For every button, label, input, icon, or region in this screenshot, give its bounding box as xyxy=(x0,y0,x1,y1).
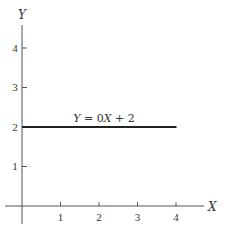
y-tick-label-2: 2 xyxy=(12,121,18,133)
x-tick-label-1: 1 xyxy=(58,211,64,223)
x-tick-label-3: 3 xyxy=(135,211,141,223)
y-tick-label-1: 1 xyxy=(12,160,18,172)
y-tick-label-4: 4 xyxy=(12,42,18,54)
y-ticks: 4 3 2 1 xyxy=(12,42,27,172)
x-ticks: 1 2 3 4 xyxy=(58,202,180,223)
y-tick-label-3: 3 xyxy=(12,81,18,93)
y-axis-label: Y xyxy=(18,8,27,22)
x-tick-label-2: 2 xyxy=(96,211,102,223)
equation-label: Y = 0X + 2 xyxy=(73,112,135,125)
x-tick-label-4: 4 xyxy=(173,211,179,223)
x-axis-label: X xyxy=(207,200,217,214)
chart: Y X 1 2 3 4 4 3 2 1 Y = 0X + 2 xyxy=(0,0,226,231)
